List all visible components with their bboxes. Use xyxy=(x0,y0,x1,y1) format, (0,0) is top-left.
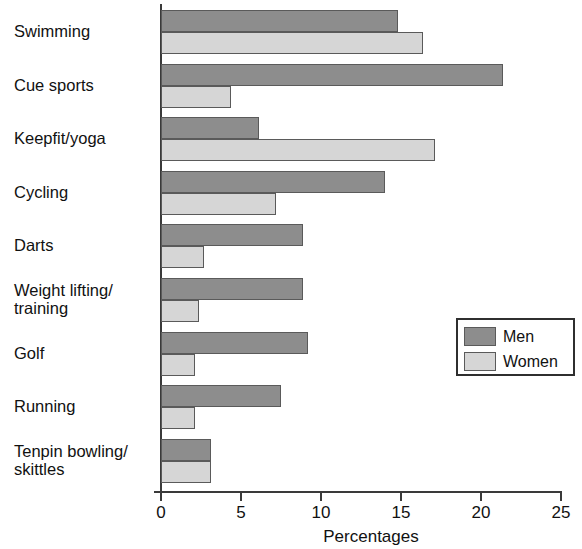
category-axis-labels: SwimmingCue sportsKeepfit/yogaCyclingDar… xyxy=(0,0,158,492)
x-axis-title: Percentages xyxy=(160,527,582,547)
x-axis-tick xyxy=(320,492,322,501)
category-label-3: Cycling xyxy=(14,183,160,201)
bar-women-7 xyxy=(161,407,195,429)
x-axis-tick xyxy=(160,492,162,501)
x-axis-tick-label: 5 xyxy=(236,503,245,523)
category-label-4: Darts xyxy=(14,236,160,254)
bar-women-6 xyxy=(161,354,195,376)
x-axis-tick-label: 20 xyxy=(472,503,491,523)
bar-women-5 xyxy=(161,300,199,322)
bar-women-4 xyxy=(161,246,204,268)
x-axis-tick xyxy=(400,492,402,501)
bar-women-0 xyxy=(161,32,423,54)
legend-label-women: Women xyxy=(503,354,558,370)
bar-men-8 xyxy=(161,439,211,461)
bar-men-7 xyxy=(161,385,281,407)
category-label-7: Running xyxy=(14,397,160,415)
x-axis-line xyxy=(154,491,562,493)
bar-men-0 xyxy=(161,10,398,32)
bar-men-5 xyxy=(161,278,303,300)
bar-women-2 xyxy=(161,139,435,161)
x-axis-tick-label: 15 xyxy=(392,503,411,523)
category-label-2: Keepfit/yoga xyxy=(14,129,160,147)
bar-men-3 xyxy=(161,171,385,193)
legend-swatch-men-icon xyxy=(464,327,496,346)
category-label-5: Weight lifting/ training xyxy=(14,281,160,318)
x-axis-tick-label: 0 xyxy=(156,503,165,523)
legend-item-men: Men xyxy=(464,325,573,348)
legend-item-women: Women xyxy=(464,350,573,373)
bar-women-1 xyxy=(161,86,231,108)
x-axis-tick-label: 25 xyxy=(552,503,571,523)
bar-women-8 xyxy=(161,461,211,483)
category-label-8: Tenpin bowling/ skittles xyxy=(14,442,160,479)
x-axis-tick-label: 10 xyxy=(312,503,331,523)
legend-swatch-women-icon xyxy=(464,352,496,371)
bar-men-4 xyxy=(161,224,303,246)
category-label-6: Golf xyxy=(14,344,160,362)
bar-women-3 xyxy=(161,193,276,215)
category-label-1: Cue sports xyxy=(14,76,160,94)
x-axis-tick xyxy=(240,492,242,501)
bar-men-2 xyxy=(161,117,259,139)
plot-area: 0510152025 xyxy=(160,0,582,492)
x-axis-tick xyxy=(480,492,482,501)
legend-label-men: Men xyxy=(503,329,534,345)
legend: Men Women xyxy=(456,318,575,376)
x-axis-tick xyxy=(560,492,562,501)
bar-men-6 xyxy=(161,332,308,354)
category-label-0: Swimming xyxy=(14,22,160,40)
bar-men-1 xyxy=(161,64,503,86)
bar-chart: SwimmingCue sportsKeepfit/yogaCyclingDar… xyxy=(0,0,582,549)
